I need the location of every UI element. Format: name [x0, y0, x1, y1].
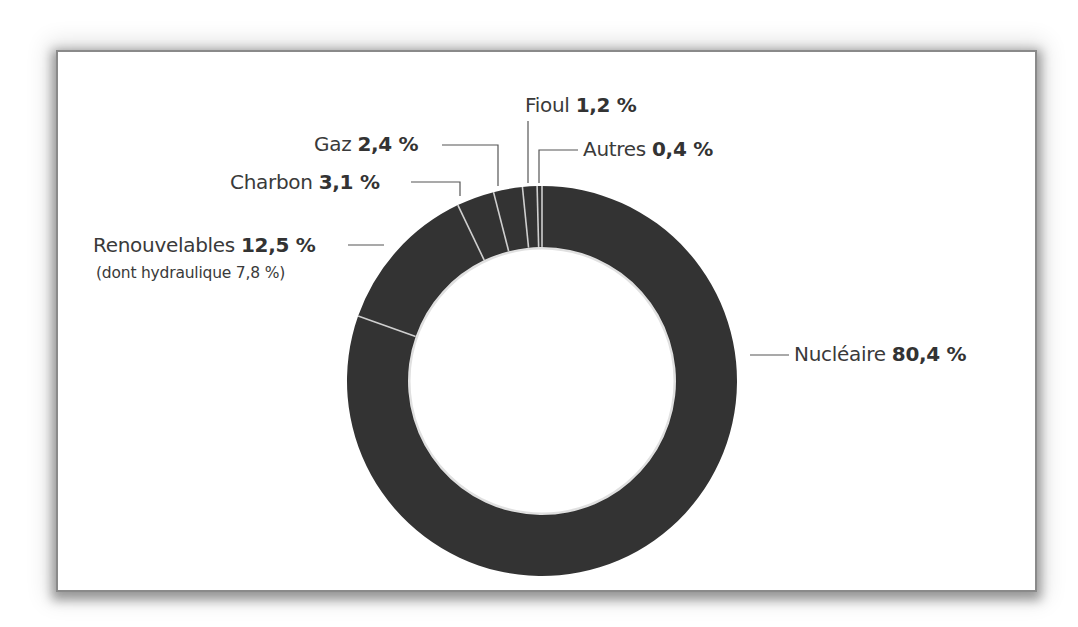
label-gaz: Gaz 2,4 % [314, 133, 418, 155]
label-nucleaire: Nucléaire 80,4 % [794, 343, 966, 365]
label-name: Nucléaire [794, 342, 886, 366]
label-value: 12,5 % [241, 233, 316, 257]
label-autres: Autres 0,4 % [583, 138, 713, 160]
label-value: 80,4 % [892, 342, 967, 366]
label-renouvelables: Renouvelables 12,5 % [93, 234, 316, 256]
leader-line-charbon [411, 182, 460, 196]
label-fioul: Fioul 1,2 % [525, 94, 637, 116]
label-value: 0,4 % [652, 137, 713, 161]
label-name: Charbon [230, 170, 313, 194]
label-charbon: Charbon 3,1 % [230, 171, 380, 193]
donut-hole-edge [409, 248, 675, 514]
label-value: 2,4 % [357, 132, 418, 156]
label-name: Gaz [314, 132, 351, 156]
label-renouvelables-note: (dont hydraulique 7,8 %) [96, 264, 285, 282]
label-value: 3,1 % [319, 170, 380, 194]
leader-line-gaz [442, 145, 498, 186]
label-name: Autres [583, 137, 646, 161]
label-value: 1,2 % [576, 93, 637, 117]
donut-slices [347, 186, 737, 576]
label-name: Fioul [525, 93, 570, 117]
label-name: Renouvelables [93, 233, 235, 257]
leader-line-autres [539, 150, 578, 183]
